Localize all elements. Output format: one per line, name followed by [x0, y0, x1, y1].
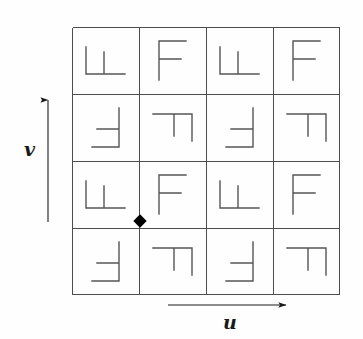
f-stroke — [220, 47, 259, 74]
f-glyph-icon — [273, 228, 340, 295]
f-stroke — [86, 47, 125, 74]
motif-r2c4 — [273, 94, 340, 161]
f-stroke — [153, 248, 192, 275]
f-glyph-icon — [139, 94, 206, 161]
f-glyph-icon — [206, 94, 273, 161]
f-stroke — [92, 242, 119, 281]
f-stroke — [293, 175, 320, 214]
f-glyph-icon — [139, 27, 206, 94]
motif-r2c2 — [139, 94, 206, 161]
f-stroke — [159, 175, 186, 214]
motif-r3c1 — [72, 161, 139, 228]
f-stroke — [153, 114, 192, 141]
f-glyph-icon — [206, 27, 273, 94]
u-axis-label: u — [223, 313, 237, 332]
f-glyph-icon — [72, 228, 139, 295]
f-stroke — [92, 108, 119, 147]
f-glyph-icon — [273, 161, 340, 228]
f-glyph-icon — [206, 161, 273, 228]
motif-r1c1 — [72, 27, 139, 94]
motif-r1c4 — [273, 27, 340, 94]
f-glyph-icon — [72, 161, 139, 228]
f-stroke — [293, 41, 320, 80]
f-stroke — [287, 114, 326, 141]
f-stroke — [220, 181, 259, 208]
diamond-icon — [133, 214, 146, 227]
motif-r1c3 — [206, 27, 273, 94]
motif-r4c3 — [206, 228, 273, 295]
f-stroke — [159, 41, 186, 80]
v-axis-label: v — [24, 140, 35, 159]
lattice-origin-marker — [132, 213, 148, 229]
motif-r3c3 — [206, 161, 273, 228]
f-stroke — [226, 242, 253, 281]
f-glyph-icon — [206, 228, 273, 295]
motif-r3c4 — [273, 161, 340, 228]
f-stroke — [287, 248, 326, 275]
f-stroke — [86, 181, 125, 208]
f-glyph-icon — [139, 161, 206, 228]
motif-r2c1 — [72, 94, 139, 161]
figure-root: v u — [0, 0, 363, 339]
f-glyph-icon — [273, 27, 340, 94]
f-glyph-icon — [72, 94, 139, 161]
f-glyph-icon — [139, 228, 206, 295]
motif-r1c2 — [139, 27, 206, 94]
motif-r3c2 — [139, 161, 206, 228]
motif-r2c3 — [206, 94, 273, 161]
f-glyph-icon — [72, 27, 139, 94]
motif-r4c4 — [273, 228, 340, 295]
motif-r4c2 — [139, 228, 206, 295]
lattice-grid — [72, 27, 340, 295]
f-glyph-icon — [273, 94, 340, 161]
f-stroke — [226, 108, 253, 147]
motif-r4c1 — [72, 228, 139, 295]
